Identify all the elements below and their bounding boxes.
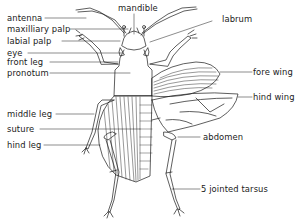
label-mandible: mandible [118,4,158,13]
label-pronotum: pronotum [7,69,49,78]
label-front-leg: front leg [7,58,43,67]
label-fore-wing: fore wing [253,68,293,77]
label-hind-wing: hind wing [253,93,295,102]
label-maxillary-palp: maxilliary palp [7,25,70,34]
front-legs [76,30,197,66]
label-suture: suture [7,125,34,134]
label-labial-palp: labial palp [7,37,51,46]
fore-wing [152,62,220,97]
label-tarsus: 5 jointed tarsus [201,185,268,194]
label-antenna: antenna [7,14,42,23]
beetle-anatomy-diagram: antenna maxilliary palp labial palp eye … [0,0,296,222]
label-hind-leg: hind leg [7,141,42,150]
label-labrum: labrum [222,15,252,24]
hind-wing [152,93,238,132]
label-middle-leg: middle leg [7,110,52,119]
label-abdomen: abdomen [203,133,243,142]
